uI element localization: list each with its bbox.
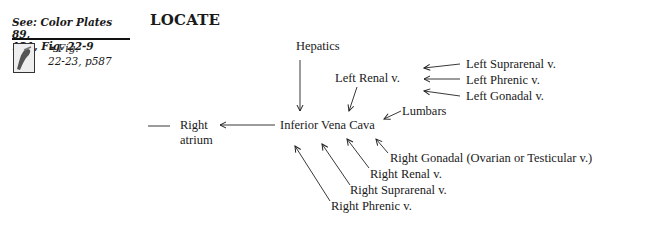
label-left-suprarenal: Left Suprarenal v. — [466, 57, 556, 71]
label-right-suprarenal: Right Suprarenal v. — [350, 183, 447, 197]
label-right-atrium-1: Right — [180, 118, 208, 132]
label-right-renal: Right Renal v. — [370, 167, 442, 181]
label-left-gonadal: Left Gonadal v. — [466, 89, 544, 103]
label-lumbars: Lumbars — [402, 104, 446, 118]
label-inferior-vena-cava: Inferior Vena Cava — [280, 118, 375, 132]
label-right-gonadal: Right Gonadal (Ovarian or Testicular v.) — [390, 151, 592, 165]
label-right-atrium-2: atrium — [180, 133, 213, 147]
arrow-diagram — [0, 0, 648, 232]
label-hepatics: Hepatics — [296, 39, 340, 53]
label-right-phrenic: Right Phrenic v. — [331, 199, 412, 213]
label-left-phrenic: Left Phrenic v. — [466, 73, 540, 87]
label-left-renal: Left Renal v. — [335, 71, 400, 85]
